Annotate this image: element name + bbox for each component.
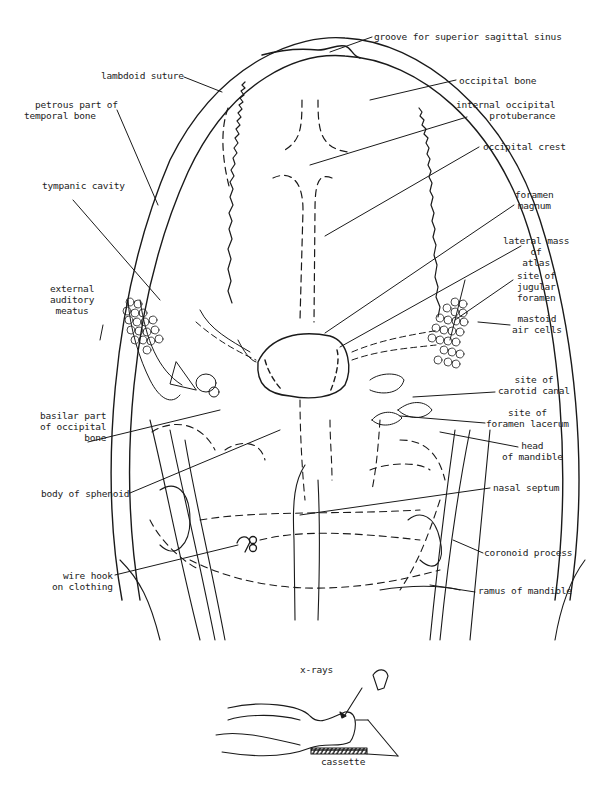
- label-body-of-sphenoid: body of sphenoid: [41, 488, 129, 499]
- label-site-of-carotid-canal: site of carotid canal: [498, 374, 570, 396]
- label-nasal-septum: nasal septum: [493, 482, 559, 493]
- label-site-of-jugular-foramen: site of jugular foramen: [517, 270, 556, 303]
- label-basilar-part-occipital: basilar part of occipital bone: [40, 410, 106, 443]
- label-site-of-foramen-lacerum: site of foramen lacerum: [486, 407, 569, 429]
- label-coronoid-process: coronoid process: [484, 547, 572, 558]
- skull-radiograph-diagram: lambdoid suture petrous part of temporal…: [0, 0, 596, 792]
- label-internal-occipital-protuberance: internal occipital protuberance: [456, 99, 555, 121]
- leader-lines: [73, 37, 521, 592]
- label-head-of-mandible: head of mandible: [502, 440, 563, 462]
- patient-positioning-inset: [216, 670, 398, 756]
- label-occipital-bone: occipital bone: [459, 75, 536, 86]
- label-x-rays: x-rays: [300, 664, 333, 675]
- facial-skeleton: [150, 400, 445, 590]
- foramen-magnum-outline: [258, 334, 349, 398]
- wire-hook-shape: [237, 537, 257, 553]
- label-foramen-magnum: foramen magnum: [515, 189, 554, 211]
- label-lambdoid-suture: lambdoid suture: [101, 70, 184, 81]
- label-lateral-mass-of-atlas: lateral mass of atlas: [503, 235, 569, 268]
- label-mastoid-air-cells: mastoid air cells: [512, 313, 562, 335]
- right-mastoid-region: [352, 280, 468, 425]
- label-ramus-of-mandible: ramus of mandible: [478, 585, 572, 596]
- label-external-auditory-meatus: external auditory meatus: [50, 283, 94, 316]
- label-cassette: cassette: [321, 756, 365, 767]
- label-groove-superior-sagittal-sinus: groove for superior sagittal sinus: [374, 31, 562, 42]
- label-wire-hook: wire hook on clothing: [52, 570, 113, 592]
- label-tympanic-cavity: tympanic cavity: [42, 180, 125, 191]
- label-petrous-text: petrous part of temporal bone: [24, 99, 118, 121]
- cruciform-eminence: [223, 100, 348, 322]
- label-occipital-crest: occipital crest: [483, 141, 566, 152]
- left-mastoid-region: [123, 298, 256, 400]
- label-petrous-temporal-bone: petrous part of temporal bone: [24, 88, 118, 121]
- lambdoid-sutures: [228, 82, 440, 317]
